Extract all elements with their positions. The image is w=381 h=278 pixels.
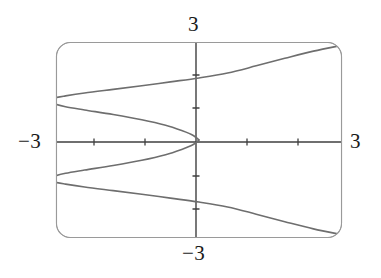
x-axis-max-label: 3 (350, 131, 361, 152)
y-axis-max-label: 3 (188, 14, 199, 35)
graph-figure: 3 −3 −3 3 (0, 0, 381, 278)
x-axis-min-label: −3 (18, 131, 41, 152)
curve-final (50, 42, 342, 238)
plot-canvas (0, 0, 381, 278)
y-axis-min-label: −3 (182, 243, 205, 264)
